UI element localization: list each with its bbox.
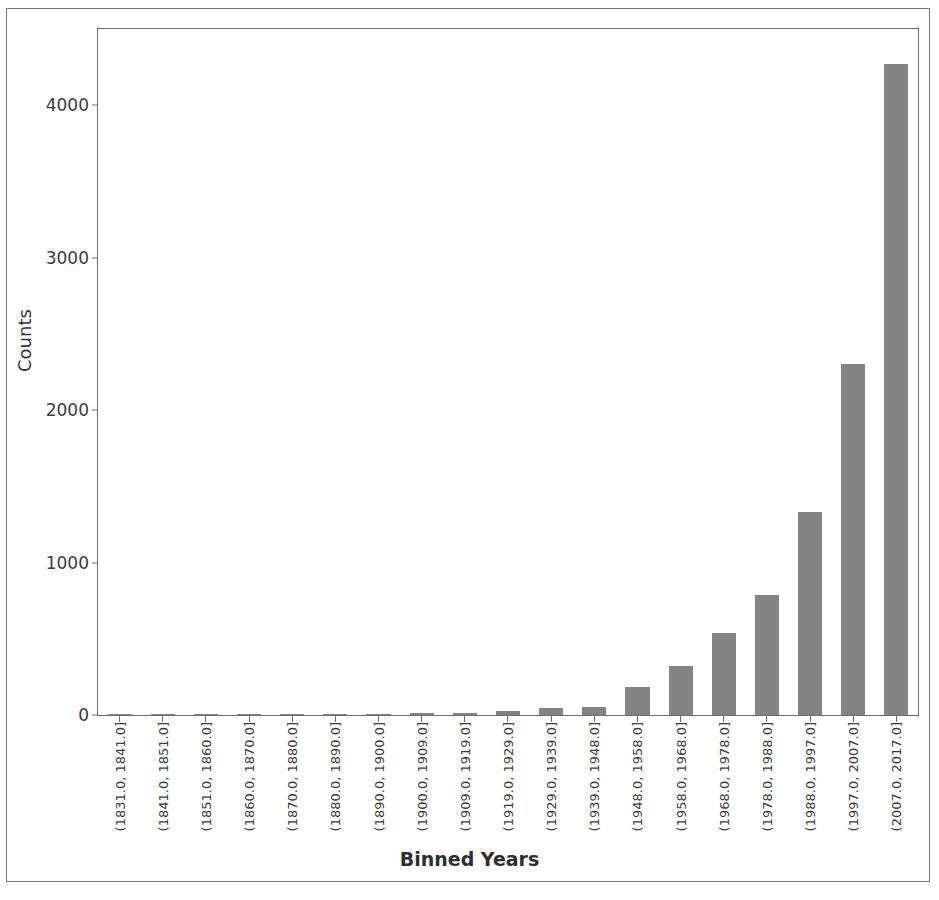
x-tick-label: (1939.0, 1948.0] — [587, 722, 602, 831]
bar — [366, 714, 390, 715]
bar — [280, 714, 304, 715]
bar-slot — [486, 29, 529, 715]
bar-slot — [659, 29, 702, 715]
x-label-slot: (1988.0, 1997.0] — [789, 722, 832, 842]
bar — [453, 713, 477, 715]
bar-slot — [141, 29, 184, 715]
x-tick-label: (1929.0, 1939.0] — [544, 722, 559, 831]
x-label-slot: (1880.0, 1890.0] — [314, 722, 357, 842]
x-tick-label: (1831.0, 1841.0] — [112, 722, 127, 831]
bar-series — [98, 29, 918, 715]
x-axis-title: Binned Years — [0, 848, 939, 870]
x-label-slot: (1968.0, 1978.0] — [702, 722, 745, 842]
y-axis-title: Counts — [14, 309, 35, 372]
x-tick-label: (1851.0, 1860.0] — [198, 722, 213, 831]
x-tick-label: (1997.0, 2007.0] — [846, 722, 861, 831]
x-label-slot: (1900.0, 1909.0] — [400, 722, 443, 842]
x-tick-label: (2007.0, 2017.0] — [889, 722, 904, 831]
bar — [884, 64, 908, 715]
x-axis-tick-labels: (1831.0, 1841.0](1841.0, 1851.0](1851.0,… — [98, 722, 918, 842]
bar-slot — [357, 29, 400, 715]
y-tick-label: 1000 — [19, 553, 98, 573]
bar-slot — [530, 29, 573, 715]
bar — [539, 708, 563, 715]
y-tick-label: 2000 — [19, 400, 98, 420]
bar-slot — [314, 29, 357, 715]
bar — [712, 633, 736, 715]
bar-slot — [400, 29, 443, 715]
x-label-slot: (1831.0, 1841.0] — [98, 722, 141, 842]
x-label-slot: (1939.0, 1948.0] — [573, 722, 616, 842]
bar-slot — [98, 29, 141, 715]
bar-slot — [875, 29, 918, 715]
x-tick-label: (1900.0, 1909.0] — [414, 722, 429, 831]
y-tick-label: 4000 — [19, 95, 98, 115]
plot-area: 01000200030004000 — [98, 29, 918, 715]
x-label-slot: (1890.0, 1900.0] — [357, 722, 400, 842]
x-tick-label: (1958.0, 1968.0] — [673, 722, 688, 831]
x-tick-label: (1870.0, 1880.0] — [285, 722, 300, 831]
bar-slot — [271, 29, 314, 715]
bar-chart-figure: Counts 01000200030004000 (1831.0, 1841.0… — [0, 0, 939, 900]
x-tick-label: (1860.0, 1870.0] — [242, 722, 257, 831]
x-tick-label: (1978.0, 1988.0] — [759, 722, 774, 831]
x-label-slot: (1870.0, 1880.0] — [271, 722, 314, 842]
x-tick-label: (1909.0, 1919.0] — [457, 722, 472, 831]
x-label-slot: (1978.0, 1988.0] — [745, 722, 788, 842]
bar — [151, 714, 175, 715]
x-tick-label: (1988.0, 1997.0] — [803, 722, 818, 831]
x-label-slot: (1948.0, 1958.0] — [616, 722, 659, 842]
x-label-slot: (1909.0, 1919.0] — [443, 722, 486, 842]
bar — [625, 687, 649, 715]
x-tick-label: (1880.0, 1890.0] — [328, 722, 343, 831]
x-label-slot: (1841.0, 1851.0] — [141, 722, 184, 842]
y-tick-label: 3000 — [19, 248, 98, 268]
x-label-slot: (1958.0, 1968.0] — [659, 722, 702, 842]
bar — [755, 595, 779, 715]
bar — [669, 666, 693, 715]
bar — [798, 512, 822, 715]
bar-slot — [227, 29, 270, 715]
x-tick-label: (1890.0, 1900.0] — [371, 722, 386, 831]
bar-slot — [573, 29, 616, 715]
x-label-slot: (1919.0, 1929.0] — [486, 722, 529, 842]
bar-slot — [443, 29, 486, 715]
x-tick-label: (1841.0, 1851.0] — [155, 722, 170, 831]
bar — [410, 713, 434, 715]
bar — [108, 714, 132, 715]
bar — [237, 714, 261, 715]
x-tick-label: (1919.0, 1929.0] — [500, 722, 515, 831]
bar-slot — [702, 29, 745, 715]
x-label-slot: (2007.0, 2017.0] — [875, 722, 918, 842]
y-tick-label: 0 — [19, 705, 98, 725]
x-label-slot: (1997.0, 2007.0] — [832, 722, 875, 842]
x-label-slot: (1860.0, 1870.0] — [227, 722, 270, 842]
x-label-slot: (1851.0, 1860.0] — [184, 722, 227, 842]
bar-slot — [616, 29, 659, 715]
x-tick-label: (1948.0, 1958.0] — [630, 722, 645, 831]
bar-slot — [745, 29, 788, 715]
bar-slot — [184, 29, 227, 715]
bar — [194, 714, 218, 715]
x-label-slot: (1929.0, 1939.0] — [530, 722, 573, 842]
bar-slot — [789, 29, 832, 715]
bar — [582, 707, 606, 715]
bar — [323, 714, 347, 715]
bar — [496, 711, 520, 715]
bar-slot — [832, 29, 875, 715]
bar — [841, 364, 865, 715]
x-tick-label: (1968.0, 1978.0] — [716, 722, 731, 831]
